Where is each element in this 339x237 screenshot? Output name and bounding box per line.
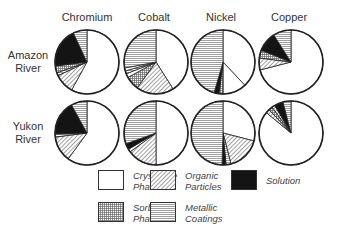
pie-slice-crystalline [156,101,188,165]
pie-slice-metallic [124,30,156,68]
legend-swatch-organic [150,170,176,190]
legend-label-metallic: MetallicCoatings [185,202,235,224]
legend-swatch-metallic [150,202,176,222]
legend-label-organic: OrganicParticles [185,170,235,192]
legend-swatch-sorbed [98,202,124,222]
pie-amazon-nickel [191,30,255,94]
pie-yukon-cobalt [124,101,188,165]
pie-yukon-nickel [191,101,255,165]
legend-item-solution: Solution [231,170,316,190]
pie-amazon-chromium [55,30,119,94]
pie-slice-metallic [191,101,223,165]
pie-amazon-cobalt [124,30,188,94]
legend-label-solution: Solution [266,175,316,186]
legend-swatch-crystalline [98,170,124,190]
legend-swatch-solution [231,170,257,190]
pie-yukon-chromium [55,101,119,165]
legend-item-metallic: MetallicCoatings [150,202,235,224]
pie-yukon-copper [259,101,323,165]
pie-amazon-copper [259,30,323,94]
legend-item-organic: OrganicParticles [150,170,235,192]
